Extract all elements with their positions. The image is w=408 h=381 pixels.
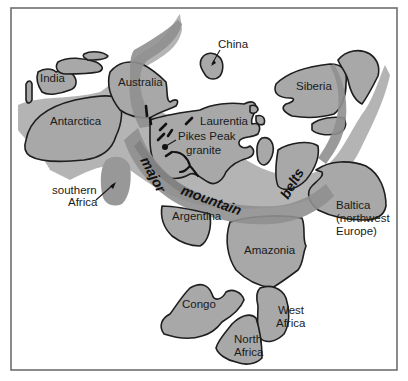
label-west-africa-1: West: [278, 304, 305, 316]
dike-marker: [146, 106, 147, 116]
laurentia-fragment-1: [250, 105, 258, 113]
label-amazonia: Amazonia: [244, 244, 296, 256]
label-baltica-1: Baltica: [336, 199, 371, 211]
fragment-north-2: [83, 52, 108, 60]
label-india: India: [40, 72, 66, 84]
rodinia-map: India Australia China Siberia Antarctica…: [0, 0, 408, 381]
label-west-africa-2: Africa: [276, 317, 306, 329]
label-china: China: [218, 38, 249, 50]
label-pikes-peak-2: granite: [186, 144, 221, 156]
label-north-africa-1: North: [234, 333, 262, 345]
label-southern-africa-2: Africa: [68, 196, 98, 208]
label-southern-africa-1: southern: [52, 184, 97, 196]
label-baltica-3: Europe): [336, 225, 377, 237]
label-australia: Australia: [118, 76, 163, 88]
label-laurentia: Laurentia: [200, 115, 249, 127]
label-baltica-2: (northwest: [336, 212, 390, 224]
label-congo: Congo: [182, 298, 216, 310]
label-antarctica: Antarctica: [50, 115, 102, 127]
label-pikes-peak-1: Pikes Peak: [178, 130, 236, 142]
label-argentina: Argentina: [172, 210, 222, 222]
laurentia-fragment-2: [256, 115, 265, 124]
india-fragment: [26, 81, 32, 103]
label-siberia: Siberia: [296, 80, 332, 92]
label-north-africa-2: Africa: [234, 346, 264, 358]
dike-marker: [150, 118, 151, 124]
